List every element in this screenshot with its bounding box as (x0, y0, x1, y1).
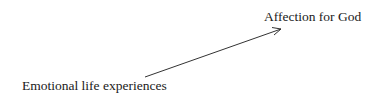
node-affection-for-god: Affection for God (264, 10, 361, 24)
arrow-line (145, 29, 281, 77)
node-emotional-life-experiences: Emotional life experiences (22, 79, 167, 93)
